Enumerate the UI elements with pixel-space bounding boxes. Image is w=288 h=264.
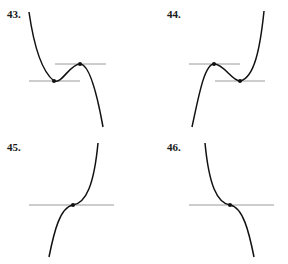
inflection-point	[228, 203, 232, 207]
inflection-point	[71, 203, 75, 207]
graph-45	[29, 143, 114, 257]
cubic-curve	[205, 143, 254, 257]
graph-44	[189, 11, 265, 127]
graphs-canvas	[0, 0, 288, 264]
graph-46	[189, 143, 274, 257]
graph-43	[29, 12, 106, 127]
local-min-point	[52, 79, 56, 83]
local-max-point	[78, 62, 82, 66]
local-max-point	[212, 62, 216, 66]
cubic-curve	[192, 11, 264, 127]
local-min-point	[238, 79, 242, 83]
cubic-curve	[29, 12, 103, 127]
cubic-curve	[49, 143, 98, 257]
